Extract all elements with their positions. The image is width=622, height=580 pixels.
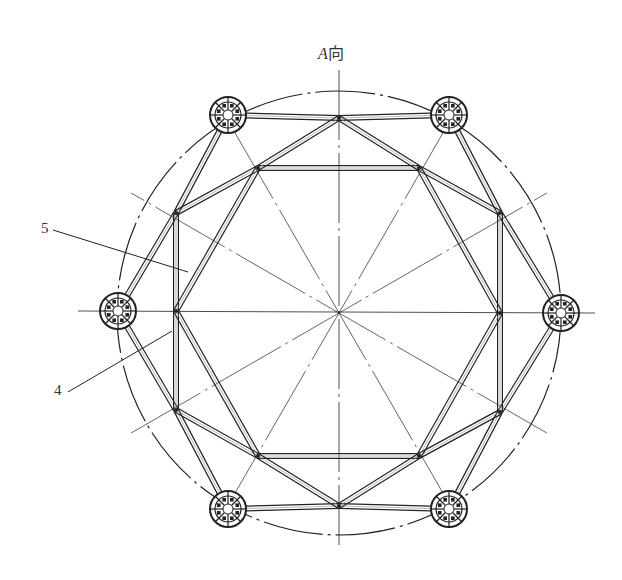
pier-bolt bbox=[451, 122, 455, 126]
pier-bolt bbox=[217, 511, 221, 515]
view-direction: 向 bbox=[328, 45, 344, 62]
pier-bolt bbox=[125, 305, 129, 309]
pier-bolt bbox=[235, 109, 239, 113]
pier-bolt bbox=[555, 302, 559, 306]
diagonal-member bbox=[257, 116, 338, 166]
joint-node bbox=[498, 211, 502, 215]
pier-bolt bbox=[112, 300, 116, 304]
pier-bolt bbox=[438, 511, 442, 515]
callout-leader-4 bbox=[68, 331, 172, 392]
pier-bolt bbox=[443, 516, 447, 520]
pier-bolt bbox=[550, 307, 554, 311]
diagonal-member bbox=[338, 454, 418, 504]
pier-bolt bbox=[550, 315, 554, 319]
pier-bolt bbox=[120, 318, 124, 322]
pier-bolt bbox=[125, 313, 129, 317]
pier-bolt bbox=[456, 117, 460, 121]
diagonal-member bbox=[259, 120, 340, 170]
pier-bolt bbox=[451, 516, 455, 520]
joint-node bbox=[174, 408, 178, 412]
joint-node bbox=[417, 454, 421, 458]
diagonal-member bbox=[420, 414, 501, 458]
diagonal-member-core bbox=[339, 456, 419, 506]
pier-bolt bbox=[456, 109, 460, 113]
pier-bolt bbox=[217, 503, 221, 507]
pier-bolt bbox=[443, 122, 447, 126]
diagonal-member-core bbox=[419, 168, 500, 213]
joint-node bbox=[417, 166, 421, 170]
pier-bolt bbox=[120, 300, 124, 304]
pier-bolt bbox=[230, 122, 234, 126]
joint-node bbox=[337, 504, 341, 508]
diagonal-member bbox=[420, 166, 501, 211]
view-title: A向 bbox=[318, 40, 344, 64]
diagonal-member bbox=[259, 454, 340, 504]
pier-bolt bbox=[456, 503, 460, 507]
pier-bolt bbox=[555, 320, 559, 324]
pier-bolt bbox=[107, 305, 111, 309]
pier-bolt bbox=[217, 109, 221, 113]
callout-leader-5 bbox=[53, 230, 188, 272]
drawing-canvas bbox=[0, 0, 622, 580]
pier-bolt bbox=[112, 318, 116, 322]
joint-node bbox=[337, 116, 341, 120]
callout-label-4: 4 bbox=[54, 382, 62, 399]
diagonal-member-core bbox=[258, 118, 339, 168]
pier-bolt bbox=[217, 117, 221, 121]
pier-bolt bbox=[230, 516, 234, 520]
pier-bolt bbox=[568, 315, 572, 319]
callout-label-5: 5 bbox=[41, 220, 49, 237]
pier-bolt bbox=[230, 498, 234, 502]
pier-bolt bbox=[235, 503, 239, 507]
pier-bolt bbox=[222, 498, 226, 502]
pier-bolt bbox=[107, 313, 111, 317]
joint-node bbox=[256, 166, 260, 170]
diagonal-member-core bbox=[258, 456, 339, 506]
diagonal-member-core bbox=[176, 311, 258, 456]
diagonal-member bbox=[175, 166, 257, 211]
view-letter: A bbox=[318, 45, 328, 62]
pier-bolt bbox=[568, 307, 572, 311]
pier-bolt bbox=[230, 104, 234, 108]
diagonal-member-core bbox=[176, 168, 258, 213]
pier-bolt bbox=[563, 320, 567, 324]
diagonal-member bbox=[257, 458, 338, 508]
pier-bolt bbox=[235, 117, 239, 121]
pier-bolt bbox=[563, 302, 567, 306]
pier-bolt bbox=[443, 104, 447, 108]
pier-bolt bbox=[456, 511, 460, 515]
pier-bolt bbox=[451, 104, 455, 108]
diagonal-member bbox=[340, 458, 420, 508]
pier-bolt bbox=[222, 104, 226, 108]
joint-node bbox=[256, 454, 260, 458]
pier-bolt bbox=[438, 109, 442, 113]
pier-bolt bbox=[222, 122, 226, 126]
pier-bolt bbox=[438, 117, 442, 121]
joint-node bbox=[174, 211, 178, 215]
pier-bolt bbox=[235, 511, 239, 515]
pier-bolt bbox=[443, 498, 447, 502]
diagonal-member-core bbox=[339, 118, 419, 168]
joint-node bbox=[174, 309, 178, 313]
joint-node bbox=[498, 311, 502, 315]
diagonal-member bbox=[338, 120, 418, 170]
pier-bolt bbox=[451, 498, 455, 502]
pier-bolt bbox=[438, 503, 442, 507]
pier-bolt bbox=[222, 516, 226, 520]
diagonal-member bbox=[340, 116, 420, 166]
joint-node bbox=[498, 410, 502, 414]
